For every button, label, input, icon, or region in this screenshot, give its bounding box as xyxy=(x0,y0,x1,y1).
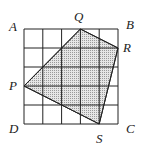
label-S: S xyxy=(96,131,103,146)
label-B: B xyxy=(126,17,134,32)
label-C: C xyxy=(126,121,135,136)
label-Q: Q xyxy=(74,9,84,24)
label-D: D xyxy=(8,121,19,136)
geometry-diagram: ABCDQRSP xyxy=(0,0,144,148)
label-P: P xyxy=(8,78,17,93)
label-A: A xyxy=(8,19,17,34)
label-R: R xyxy=(122,40,131,55)
